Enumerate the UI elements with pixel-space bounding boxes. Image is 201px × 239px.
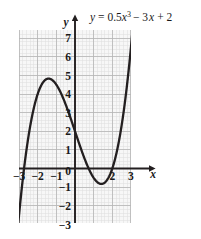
x-tick-label: 2	[109, 170, 115, 182]
y-axis-label: y	[61, 16, 69, 29]
y-tick-label: 4	[65, 88, 71, 100]
equation-x2: x	[148, 11, 155, 23]
x-tick-label: 0	[65, 165, 71, 177]
y-tick-label: 1	[65, 144, 71, 156]
y-tick-label: 7	[65, 32, 71, 44]
y-tick-label: −3	[59, 219, 72, 231]
y-tick-label: 2	[65, 125, 71, 137]
equation-end: + 2	[157, 11, 172, 23]
equation-annotation: y= 0.5x3− 3x+ 2	[89, 10, 173, 24]
x-tick-label: −1	[50, 170, 63, 182]
y-tick-label: 3	[65, 107, 71, 119]
cubic-function-graph: −3−2−1023 7654321−1−2−3 y x y= 0.5x3− 3x…	[0, 0, 201, 239]
equation-middle: − 3	[133, 11, 148, 23]
x-axis-label: x	[149, 168, 156, 180]
y-tick-label: 6	[65, 51, 71, 63]
y-tick-label: −2	[59, 200, 72, 212]
x-tick-label: −3	[13, 170, 26, 182]
y-tick-label: 5	[65, 70, 71, 82]
equation-equals: = 0.5	[98, 11, 122, 23]
x-tick-label: 3	[128, 170, 134, 182]
graph-figure: −3−2−1023 7654321−1−2−3 y x y= 0.5x3− 3x…	[0, 0, 201, 239]
y-tick-label: −1	[59, 181, 72, 193]
equation-y: y	[89, 11, 96, 24]
equation-exponent: 3	[127, 10, 131, 19]
x-tick-label: −2	[32, 170, 45, 182]
